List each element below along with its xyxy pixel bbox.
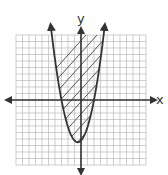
parabola-inequality-graph: y x — [0, 0, 168, 175]
x-axis-label: x — [156, 92, 164, 107]
y-axis-label: y — [77, 11, 85, 26]
shaded-region — [0, 0, 168, 175]
